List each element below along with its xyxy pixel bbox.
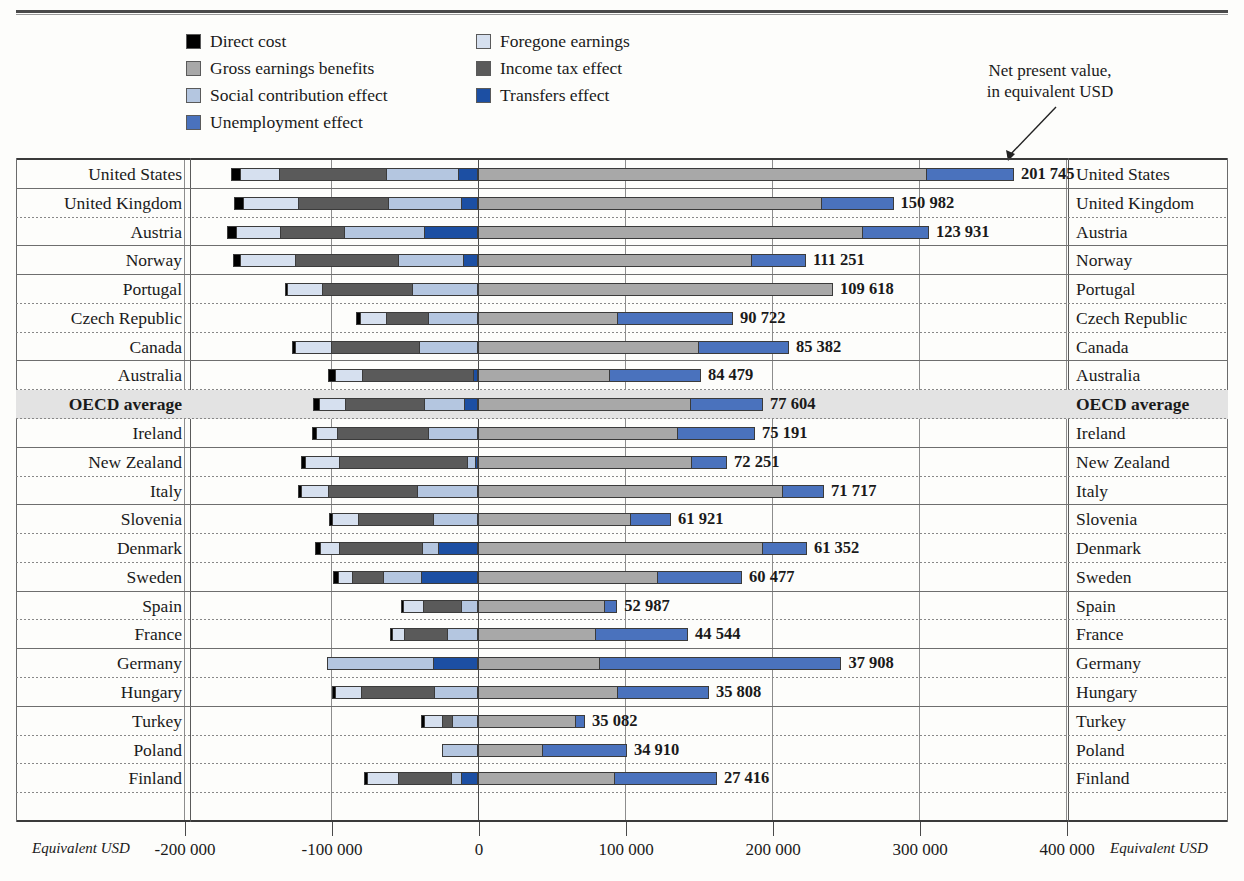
row-label-left: OECD average (16, 390, 182, 419)
bar-value-label: 52 987 (624, 592, 669, 621)
row-label-right: Italy (1076, 477, 1244, 506)
axis-tick-label: -200 000 (155, 840, 216, 860)
bar-segment-social-contribution-effect (434, 686, 478, 699)
stacked-bar: 27 416 (191, 764, 1068, 793)
bar-segment-gross-earnings-benefits (478, 542, 763, 555)
bar-segment-transfers-effect (424, 226, 478, 239)
row-label-left: Austria (16, 218, 182, 247)
bar-value-label: 123 931 (936, 218, 990, 247)
row-label-left: Poland (16, 736, 182, 765)
bar-segment-gross-earnings-benefits (478, 427, 678, 440)
bar-value-label: 85 382 (796, 333, 841, 362)
chart-row: SpainSpain52 987 (16, 592, 1228, 621)
axis-tick-label: 300 000 (892, 840, 947, 860)
bar-value-label: 77 604 (770, 390, 815, 419)
bar-segment-transfers-effect (473, 369, 478, 382)
row-label-right: Denmark (1076, 534, 1244, 563)
stacked-bar: 109 618 (191, 275, 1068, 304)
stacked-bar: 75 191 (191, 419, 1068, 448)
chart-row: SwedenSweden60 477 (16, 563, 1228, 592)
row-label-right: Slovenia (1076, 505, 1244, 534)
row-label-right: New Zealand (1076, 448, 1244, 477)
axis-tick (773, 822, 774, 836)
bar-segment-transfers-effect (458, 168, 478, 181)
axis-unit-right: Equivalent USD (1110, 840, 1208, 857)
row-label-left: Slovenia (16, 505, 182, 534)
axis-tick (920, 822, 921, 836)
stacked-bar: 85 382 (191, 333, 1068, 362)
bar-segment-gross-earnings-benefits (478, 485, 783, 498)
chart-row: HungaryHungary35 808 (16, 678, 1228, 707)
row-label-left: Ireland (16, 419, 182, 448)
row-label-left: United Kingdom (16, 189, 182, 218)
bar-segment-gross-earnings-benefits (478, 226, 863, 239)
bar-value-label: 37 908 (848, 649, 893, 678)
legend-label-social-contribution-effect: Social contribution effect (210, 87, 388, 105)
stacked-bar: 201 745 (191, 160, 1068, 189)
chart-row: United StatesUnited States201 745 (16, 160, 1228, 189)
bar-segment-transfers-effect (433, 657, 478, 670)
row-label-right: United Kingdom (1076, 189, 1244, 218)
bar-segment-social-contribution-effect (452, 715, 478, 728)
chart-row: TurkeyTurkey35 082 (16, 707, 1228, 736)
row-label-right: Hungary (1076, 678, 1244, 707)
bar-value-label: 84 479 (708, 361, 753, 390)
bar-segment-gross-earnings-benefits (478, 772, 615, 785)
bar-segment-gross-earnings-benefits (478, 369, 610, 382)
bar-segment-social-contribution-effect (433, 513, 478, 526)
bar-segment-social-contribution-effect (428, 312, 478, 325)
bar-segment-gross-earnings-benefits (478, 398, 691, 411)
stacked-bar: 44 544 (191, 620, 1068, 649)
legend-swatch-foregone-earnings-icon (476, 34, 491, 49)
chart-row: DenmarkDenmark61 352 (16, 534, 1228, 563)
chart-row: AustriaAustria123 931 (16, 218, 1228, 247)
net-present-value-annotation: Net present value, in equivalent USD (950, 60, 1150, 103)
top-divider-rule-thin (16, 14, 1228, 15)
bar-value-label: 111 251 (813, 246, 865, 275)
chart-row: OECD averageOECD average77 604 (16, 390, 1228, 419)
legend-label-income-tax-effect: Income tax effect (500, 60, 622, 78)
bar-value-label: 27 416 (724, 764, 769, 793)
axis-tick (1067, 822, 1068, 836)
axis-unit-left: Equivalent USD (32, 840, 130, 857)
bar-value-label: 90 722 (740, 304, 785, 333)
legend-swatch-transfers-effect-icon (476, 88, 491, 103)
stacked-bar: 150 982 (191, 189, 1068, 218)
bar-value-label: 34 910 (634, 736, 679, 765)
bar-value-label: 61 921 (678, 505, 723, 534)
legend-swatch-gross-earnings-benefits-icon (186, 61, 201, 76)
chart-row: IrelandIreland75 191 (16, 419, 1228, 448)
chart-row: ItalyItaly71 717 (16, 477, 1228, 506)
chart-row: FinlandFinland27 416 (16, 764, 1228, 793)
row-label-right: Germany (1076, 649, 1244, 678)
legend-item-direct-cost: Direct cost (186, 28, 476, 55)
stacked-bar: 61 921 (191, 505, 1068, 534)
chart-row: Czech RepublicCzech Republic90 722 (16, 304, 1228, 333)
bar-segment-gross-earnings-benefits (478, 513, 631, 526)
bar-segment-gross-earnings-benefits (478, 686, 618, 699)
row-label-right: OECD average (1076, 390, 1244, 419)
chart-row: PortugalPortugal109 618 (16, 275, 1228, 304)
bar-value-label: 61 352 (814, 534, 859, 563)
row-label-right: Poland (1076, 736, 1244, 765)
bar-value-label: 35 082 (592, 707, 637, 736)
stacked-bar: 71 717 (191, 477, 1068, 506)
bar-segment-gross-earnings-benefits (478, 341, 699, 354)
row-label-left: Sweden (16, 563, 182, 592)
legend-swatch-direct-cost-icon (186, 34, 201, 49)
row-label-left: Spain (16, 592, 182, 621)
axis-tick-label: -100 000 (302, 840, 363, 860)
chart-plot-frame: United StatesUnited States201 745United … (16, 158, 1228, 822)
bar-segment-gross-earnings-benefits (478, 715, 576, 728)
row-label-left: Norway (16, 246, 182, 275)
legend-label-transfers-effect: Transfers effect (500, 87, 609, 105)
row-label-left: Turkey (16, 707, 182, 736)
legend-label-direct-cost: Direct cost (210, 33, 286, 51)
legend-item-foregone-earnings: Foregone earnings (476, 28, 806, 55)
annotation-arrow-icon (1000, 105, 1060, 163)
stacked-bar: 34 910 (191, 736, 1068, 765)
bar-segment-income-tax-effect (339, 456, 478, 469)
axis-tick (479, 822, 480, 836)
row-label-right: Canada (1076, 333, 1244, 362)
chart-row: SloveniaSlovenia61 921 (16, 505, 1228, 534)
